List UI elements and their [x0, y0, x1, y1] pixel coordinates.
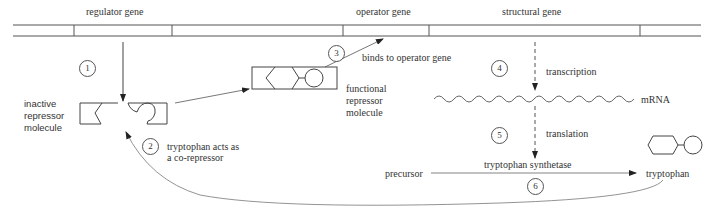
gene-bar: [13, 25, 701, 36]
step-2-label: tryptophan acts as a co-repressor: [167, 141, 239, 163]
tryptophan-label: tryptophan: [646, 168, 689, 179]
regulator-gene-label: regulator gene: [86, 6, 143, 17]
step-4-label: transcription: [546, 66, 597, 77]
step-1-badge: 1: [79, 60, 96, 77]
functional-repressor-shape: [252, 67, 337, 89]
step-2-badge: 2: [142, 138, 159, 155]
arrow-inactive-to-functional: [175, 89, 249, 103]
step-3-badge: 3: [328, 45, 345, 62]
functional-repressor-label: functional repressor molecule: [346, 83, 387, 119]
operator-gene-label: operator gene: [356, 6, 411, 17]
precursor-label: precursor: [385, 168, 423, 179]
structural-gene-label: structural gene: [502, 6, 561, 17]
tryptophan-shape: [648, 136, 702, 154]
inactive-repressor-label: inactive repressor molecule: [24, 98, 64, 134]
step-5-label: translation: [546, 128, 588, 139]
step-4-badge: 4: [491, 60, 508, 77]
enzyme-label: tryptophan synthetase: [484, 159, 571, 170]
inactive-repressor-shape: [80, 103, 167, 124]
step-3-label: binds to operator gene: [362, 52, 451, 63]
step-5-badge: 5: [491, 127, 508, 144]
mrna-strand: [434, 96, 634, 102]
mrna-label: mRNA: [641, 94, 670, 105]
step-6-badge: 6: [527, 178, 544, 195]
